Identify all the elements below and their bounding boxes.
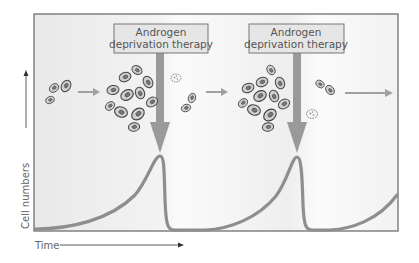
y-axis-label: Cell numbers [20,163,31,229]
therapy-box-2: Androgen deprivation therapy [244,24,348,53]
androgen-therapy-diagram: Androgen deprivation therapy Androgen de… [0,0,419,263]
therapy-box-1: Androgen deprivation therapy [109,24,213,53]
x-axis-label: Time [34,240,59,251]
y-axis-arrow [24,70,29,128]
x-axis-arrow [60,243,184,248]
therapy-box-1-line2: deprivation therapy [109,38,213,50]
therapy-box-2-line1: Androgen [271,26,322,38]
therapy-box-1-line1: Androgen [136,26,187,38]
therapy-box-2-line2: deprivation therapy [244,38,348,50]
